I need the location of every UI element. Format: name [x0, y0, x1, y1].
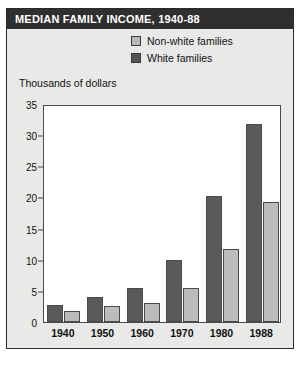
- bar-non-white-families: [104, 306, 120, 322]
- bar-white-families: [47, 305, 63, 322]
- plot-area: [43, 105, 281, 323]
- bar-group: [246, 106, 279, 322]
- bar-white-families: [127, 288, 143, 322]
- y-axis-tick-mark: [38, 136, 43, 137]
- bar-white-families: [206, 196, 222, 322]
- bar-non-white-families: [263, 202, 279, 322]
- legend-item-non-white-families: Non-white families: [131, 33, 281, 48]
- bar-white-families: [246, 124, 262, 322]
- bar-non-white-families: [183, 288, 199, 322]
- legend-swatch-icon: [131, 36, 141, 46]
- bar-non-white-families: [144, 303, 160, 322]
- legend-label: White families: [147, 52, 212, 64]
- bar-group: [47, 106, 80, 322]
- chart-legend: Non-white families White families: [131, 33, 281, 67]
- x-axis-tick-label: 1980: [210, 327, 233, 339]
- page-title: MEDIAN FAMILY INCOME, 1940-88: [15, 13, 200, 25]
- chart-figure: MEDIAN FAMILY INCOME, 1940-88 Non-white …: [6, 8, 294, 349]
- x-axis-tick-label: 1940: [51, 327, 74, 339]
- bar-group: [87, 106, 120, 322]
- legend-label: Non-white families: [147, 35, 233, 47]
- x-axis-tick-label: 1960: [130, 327, 153, 339]
- bar-group: [166, 106, 199, 322]
- y-axis-title: Thousands of dollars: [19, 77, 116, 89]
- bar-group: [206, 106, 239, 322]
- x-axis-tick-label: 1970: [170, 327, 193, 339]
- bar-non-white-families: [64, 311, 80, 322]
- legend-item-white-families: White families: [131, 50, 281, 65]
- x-axis-tick-label: 1988: [249, 327, 272, 339]
- y-axis-tick-text: 0: [31, 318, 43, 329]
- y-axis-tick-label: 35: [7, 100, 43, 111]
- bar-white-families: [87, 297, 103, 322]
- y-axis-tick-text: 35: [26, 100, 43, 111]
- y-axis-tick-label: 0: [7, 318, 43, 329]
- y-axis-tick-mark: [38, 198, 43, 199]
- y-axis-tick-mark: [38, 291, 43, 292]
- bar-non-white-families: [223, 249, 239, 322]
- y-axis-tick-mark: [38, 260, 43, 261]
- bar-container: [44, 106, 280, 322]
- chart-title-bar: MEDIAN FAMILY INCOME, 1940-88: [7, 9, 293, 29]
- x-axis-tick-label: 1950: [91, 327, 114, 339]
- y-axis-tick-mark: [38, 229, 43, 230]
- legend-swatch-icon: [131, 53, 141, 63]
- bar-group: [127, 106, 160, 322]
- y-axis-tick-mark: [38, 167, 43, 168]
- bar-white-families: [166, 260, 182, 322]
